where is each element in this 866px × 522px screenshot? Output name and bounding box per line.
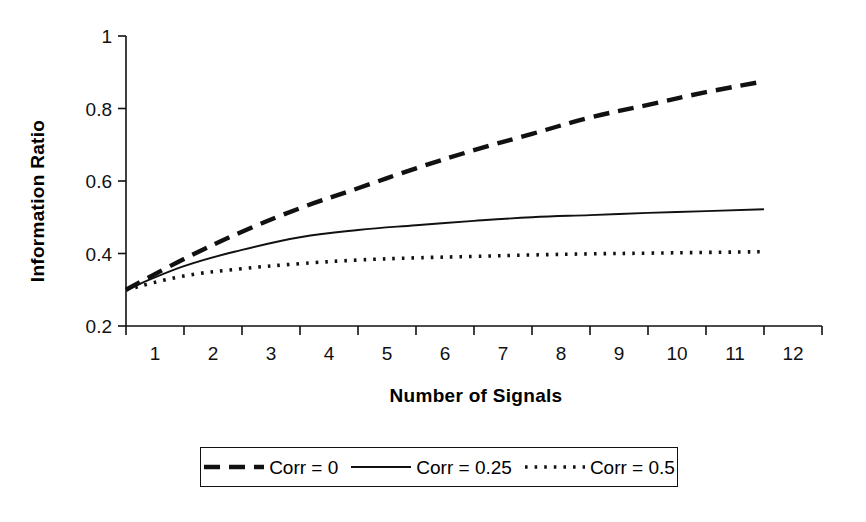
x-axis-title: Number of Signals <box>126 385 826 407</box>
x-axis-tick-label: 3 <box>266 344 277 363</box>
legend-entry[interactable]: Corr = 0.25 <box>344 458 518 477</box>
legend-entry[interactable]: Corr = 0.5 <box>518 458 681 477</box>
x-axis-tick-label: 11 <box>725 344 745 363</box>
legend-label: Corr = 0 <box>269 458 338 477</box>
series-line-dotted <box>126 252 764 290</box>
y-axis-title: Information Ratio <box>27 86 49 316</box>
series-line-solid <box>126 209 764 289</box>
x-axis-tick-label: 8 <box>556 344 567 363</box>
x-axis-tick-label: 10 <box>666 344 687 363</box>
data-series-group <box>126 81 764 289</box>
legend-label: Corr = 0.25 <box>416 458 512 477</box>
x-axis-tick-label: 7 <box>498 344 509 363</box>
legend-line-swatch-dashed-icon <box>203 460 265 474</box>
plot-canvas <box>0 0 866 522</box>
y-axis-tick-label: 1 <box>40 27 112 46</box>
legend-entry[interactable]: Corr = 0 <box>197 458 344 477</box>
x-axis-tick-label: 5 <box>382 344 393 363</box>
y-axis-tick-label: 0.4 <box>40 244 112 263</box>
legend-line-swatch-solid-icon <box>350 460 412 474</box>
x-axis-tick-label: 9 <box>614 344 625 363</box>
y-axis-tick-label: 0.2 <box>40 317 112 336</box>
x-axis-tick-label: 4 <box>324 344 335 363</box>
x-axis-tick-label: 6 <box>440 344 451 363</box>
chart-figure: 10.80.60.40.2 123456789101112 Informatio… <box>0 0 866 522</box>
x-axis-tick-label: 1 <box>150 344 161 363</box>
chart-legend: Corr = 0Corr = 0.25Corr = 0.5 <box>200 447 678 487</box>
y-axis-ticks <box>118 36 126 326</box>
y-axis-tick-label: 0.6 <box>40 172 112 191</box>
x-axis-ticks <box>126 326 822 335</box>
legend-label: Corr = 0.5 <box>590 458 675 477</box>
y-axis-tick-label: 0.8 <box>40 99 112 118</box>
legend-line-swatch-dotted-icon <box>524 460 586 474</box>
x-axis-tick-label: 2 <box>208 344 219 363</box>
series-line-dashed <box>126 81 764 289</box>
x-axis-tick-label: 12 <box>782 344 803 363</box>
